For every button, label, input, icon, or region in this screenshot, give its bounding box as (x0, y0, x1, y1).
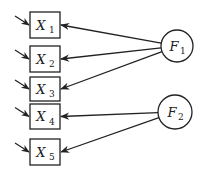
variable-label: X (35, 145, 46, 160)
latent-factor-f2: F2 (158, 95, 192, 129)
variable-label: X (35, 82, 46, 97)
variable-label: X (35, 18, 46, 33)
nodes: X1X2X3X4X5F1F2 (30, 12, 193, 165)
factor-subscript: 1 (180, 46, 186, 56)
factor-diagram: X1X2X3X4X5F1F2 (0, 0, 206, 174)
error-arrow-x4 (15, 108, 29, 117)
factor-label: F (168, 39, 179, 54)
error-arrow-x5 (15, 143, 29, 152)
variable-subscript: 3 (49, 89, 55, 99)
observed-variable-x3: X3 (30, 77, 60, 101)
variable-subscript: 5 (49, 152, 55, 162)
factor-label: F (166, 105, 177, 120)
loading-arrow-f1-x1 (61, 25, 161, 43)
variable-label: X (35, 109, 46, 124)
observed-variable-x4: X4 (30, 104, 60, 129)
latent-factor-f1: F1 (161, 30, 193, 62)
observed-variable-x1: X1 (30, 12, 60, 38)
factor-subscript: 2 (178, 112, 184, 122)
variable-subscript: 1 (49, 25, 55, 35)
loading-arrow-f2-x5 (61, 118, 159, 152)
variable-label: X (35, 52, 46, 67)
error-arrow-x1 (15, 16, 29, 25)
variable-subscript: 4 (49, 117, 55, 127)
observed-variable-x5: X5 (30, 139, 60, 165)
loading-arrows (61, 25, 162, 152)
error-arrows (15, 16, 29, 152)
variable-subscript: 2 (49, 59, 55, 69)
error-arrow-x3 (15, 80, 29, 89)
loading-arrow-f2-x4 (61, 113, 158, 117)
observed-variable-x2: X2 (30, 46, 60, 72)
error-arrow-x2 (15, 50, 29, 59)
